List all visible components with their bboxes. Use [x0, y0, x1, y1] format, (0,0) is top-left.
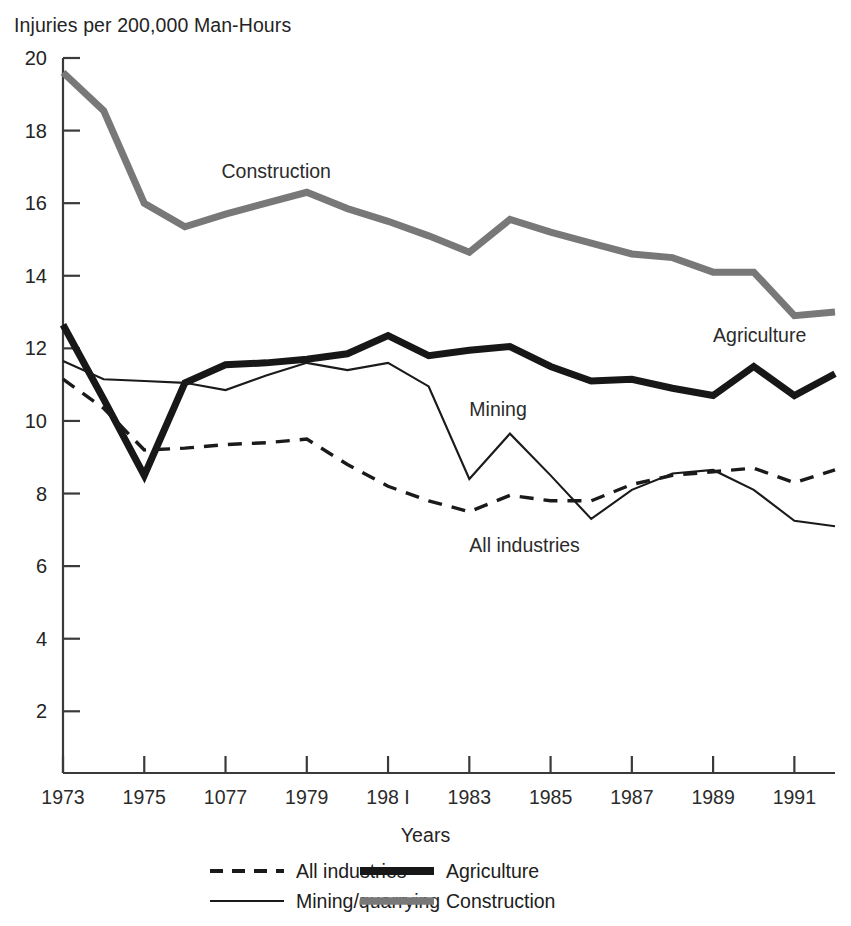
y-tick-label: 14	[5, 264, 47, 287]
x-tick-label: 1989	[691, 786, 734, 809]
legend-item-agriculture: Agriculture	[360, 860, 600, 883]
inline-label-construction: Construction	[221, 160, 330, 183]
y-tick-label: 6	[5, 555, 47, 578]
x-tick-label: 198 I	[366, 786, 409, 809]
y-tick-label: 4	[5, 627, 47, 650]
y-tick-label: 12	[5, 337, 47, 360]
series-line-agriculture	[63, 325, 835, 476]
x-tick-label: 1985	[529, 786, 572, 809]
x-tick-label: 1991	[773, 786, 816, 809]
x-tick-label: 1979	[285, 786, 328, 809]
legend-label: Agriculture	[446, 860, 539, 883]
inline-label-mining: Mining	[469, 398, 526, 421]
chart-legend: All industriesAgricultureMining/quarryin…	[210, 856, 730, 916]
x-tick-label: 1983	[448, 786, 491, 809]
thick-gray-line-swatch	[360, 894, 434, 908]
x-tick-label: 1077	[204, 786, 247, 809]
x-tick-label: 1975	[123, 786, 166, 809]
y-tick-label: 8	[5, 482, 47, 505]
thin-black-line-swatch	[210, 894, 284, 908]
inline-label-agriculture: Agriculture	[713, 324, 806, 347]
injury-rate-line-chart: Injuries per 200,000 Man-Hours 246810121…	[0, 0, 851, 926]
legend-item-construction: Construction	[360, 890, 600, 913]
dashed-line-swatch	[210, 864, 284, 878]
x-axis-title: Years	[0, 824, 851, 847]
x-tick-label: 1973	[41, 786, 84, 809]
y-tick-label: 20	[5, 47, 47, 70]
legend-item-all-industries: All industries	[210, 860, 360, 883]
y-tick-label: 10	[5, 409, 47, 432]
series-line-construction	[63, 73, 835, 316]
thick-black-line-swatch	[360, 864, 434, 878]
x-tick-label: 1987	[610, 786, 653, 809]
inline-label-all-industries: All industries	[469, 534, 580, 557]
y-tick-label: 18	[5, 119, 47, 142]
y-tick-label: 2	[5, 700, 47, 723]
y-tick-label: 16	[5, 192, 47, 215]
legend-label: Construction	[446, 890, 555, 913]
series-line-mining-quarrying	[63, 361, 835, 526]
legend-item-mining-quarrying: Mining/quarrying	[210, 890, 360, 913]
